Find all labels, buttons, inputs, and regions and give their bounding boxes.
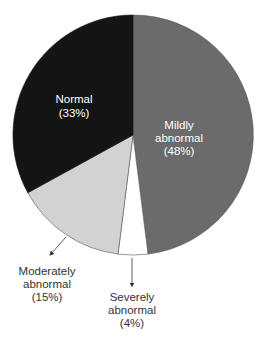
svg-text:abnormal: abnormal: [23, 278, 71, 290]
svg-text:(15%): (15%): [32, 291, 63, 303]
svg-text:Normal: Normal: [55, 93, 92, 105]
label-moderately-abnormal: Moderately abnormal (15%): [19, 265, 76, 303]
svg-text:abnormal: abnormal: [155, 132, 203, 144]
svg-text:(48%): (48%): [164, 145, 195, 157]
svg-text:abnormal: abnormal: [108, 304, 156, 316]
svg-text:Mildly: Mildly: [164, 119, 194, 131]
label-severely-abnormal: Severely abnormal (4%): [108, 291, 156, 329]
svg-text:(4%): (4%): [120, 317, 144, 329]
pie-chart: Normal (33%) Mildly abnormal (48%) Moder…: [0, 0, 263, 337]
svg-text:(33%): (33%): [59, 107, 90, 119]
svg-text:Moderately: Moderately: [19, 265, 76, 277]
arrow-moderately-abnormal: [51, 237, 66, 254]
svg-text:Severely: Severely: [110, 291, 155, 303]
